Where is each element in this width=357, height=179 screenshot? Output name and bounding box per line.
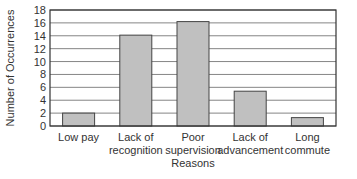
bar xyxy=(234,91,266,126)
bar-chart: 024681012141618 Low payLack ofrecognitio… xyxy=(0,0,357,179)
x-tick-label: Poor xyxy=(181,131,205,143)
y-tick-label: 0 xyxy=(40,120,46,132)
y-tick-label: 16 xyxy=(34,17,46,29)
x-tick-label: Low pay xyxy=(58,131,99,143)
x-tick-label: Lack of xyxy=(232,131,268,143)
y-tick-label: 6 xyxy=(40,81,46,93)
y-tick-label: 14 xyxy=(34,30,46,42)
chart-canvas: 024681012141618 Low payLack ofrecognitio… xyxy=(0,0,357,179)
bars xyxy=(63,22,324,126)
bar xyxy=(177,22,209,126)
x-tick-label: Lack of xyxy=(118,131,154,143)
y-axis-ticks: 024681012141618 xyxy=(34,4,46,132)
y-tick-label: 18 xyxy=(34,4,46,16)
x-axis-ticks: Low payLack ofrecognitionPoorsupervision… xyxy=(58,131,330,156)
x-tick-label: Long xyxy=(295,131,319,143)
bar xyxy=(291,118,323,126)
bar xyxy=(120,35,152,126)
bar xyxy=(63,113,95,126)
x-tick-label: supervision xyxy=(165,144,221,156)
x-tick-label: advancement xyxy=(217,144,283,156)
y-tick-label: 10 xyxy=(34,56,46,68)
x-tick-label: recognition xyxy=(109,144,163,156)
y-axis-label: Number of Occurrences xyxy=(4,9,16,126)
x-axis-label: Reasons xyxy=(171,157,215,169)
y-tick-label: 2 xyxy=(40,107,46,119)
y-tick-label: 8 xyxy=(40,68,46,80)
y-tick-label: 4 xyxy=(40,94,46,106)
y-tick-label: 12 xyxy=(34,43,46,55)
x-tick-label: commute xyxy=(285,144,330,156)
